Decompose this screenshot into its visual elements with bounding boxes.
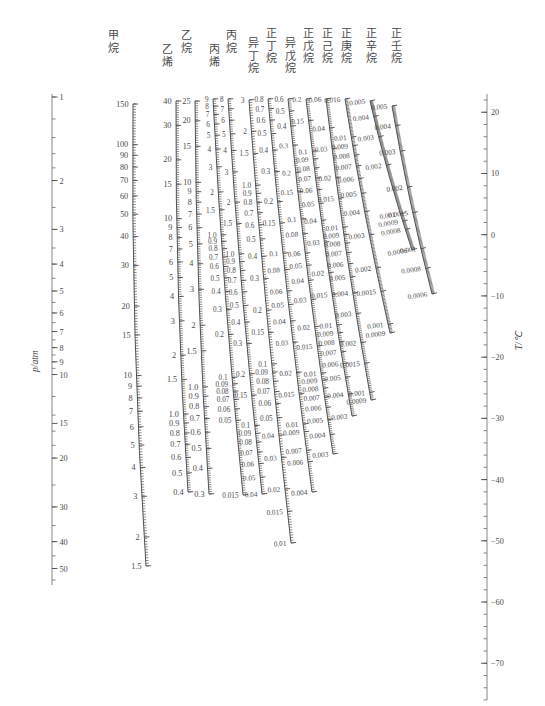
scale-tick-label: 0.003 [312,451,329,460]
scale-tick-label: 0.01 [274,540,287,549]
scale-tick-label: 60 [120,192,128,201]
scale-tick-label: 0.15 [251,329,264,337]
scale-tick-label: −70 [491,659,504,668]
scale-tick-label: 40 [60,538,68,547]
scale-tick-label: 0.6 [190,428,200,437]
scale-tick-label: 0.05 [271,301,284,310]
scale-tick-label: 0.1 [287,216,297,225]
scale-tick-label: 0.7 [255,106,264,114]
scale-tick-label: 0.5 [276,108,285,116]
scale-tick-label: 0.0015 [340,360,361,370]
scale-tick-label: 10 [124,371,132,380]
scale-tick-label: 0.0015 [388,209,409,219]
scale-tick-label: 0.04 [312,125,325,134]
scale-tick-label: 0.006 [287,459,304,468]
scale-tick-label: 0.3 [194,490,204,499]
scale-tick-label: 8 [129,394,133,403]
scale-tick-label: 0.05 [289,262,303,271]
scale-tick-label: 0.008 [318,339,335,348]
scale-tick-label: 0.015 [311,291,328,300]
scale-tick-label: 20 [491,108,499,117]
scale-tick-label: 0.004 [374,122,391,132]
scale-tick-label: 0.5 [172,469,182,478]
scale-tick-label: 0.07 [298,175,312,184]
scale-tick-label: 0.008 [324,240,341,249]
scale-tick-label: 100 [116,140,128,149]
scale-tick-label: 15 [60,419,68,428]
scale-tick-label: 0.08 [297,165,311,174]
scale-tick-label: 4 [208,146,212,154]
scale-tick-label: 0.2 [264,198,273,206]
scale-tick-label: 4 [60,260,64,269]
scale-tick-label: 0.015 [318,195,335,204]
scale-tick-label: 0.006 [337,175,354,185]
scale-tick-label: 0.9 [226,258,235,266]
scale-tick-label: 0.8 [255,96,264,104]
scale-tick-label: 0.08 [239,439,252,447]
scale-tick-label: 0.8 [170,429,180,438]
scale-tick-label: 5 [60,287,64,296]
scale-tick-label: 0.004 [291,489,308,498]
scale-tick-label: 0.08 [267,266,280,275]
scale-tick-label: 3 [241,97,245,105]
scale-tick-label: 2 [60,177,64,186]
scale-tick-label: 2 [191,321,195,330]
scale-tick-label: 20 [182,116,190,125]
scale-tick-label: 0.4 [277,123,286,131]
scale-tick-label: 80 [120,163,128,172]
scale-tick-label: 0.02 [311,269,325,278]
scale-tick-label: 7 [60,328,64,337]
scale-tick-label: 6 [206,121,210,129]
scale-tick-label: 0.6 [229,289,238,297]
scale-tick-label: 0.0009 [346,397,367,407]
scale-tick-label: 0.03 [307,239,321,248]
scale-tick-label: 0.08 [285,231,298,240]
scale-tick-label: −60 [491,598,504,607]
scale-tick-label: 0.06 [300,186,314,195]
scale-tick-label: 0.2 [253,307,262,315]
scale-tick-label: 0.2 [282,169,292,178]
scale-tick-label: 3 [171,317,175,326]
scale-tick-label: 10 [164,214,172,223]
scale-tick-label: 0.3 [261,168,270,176]
scale-tick-label: 0.007 [285,447,302,456]
scale-tick-label: 0.6 [171,453,181,462]
scale-tick-label: −20 [491,353,504,362]
scale-tick-label: 20 [163,155,171,164]
scale-tick-label: 0.005 [371,103,388,113]
scale-tick-label: 2 [136,533,140,542]
scale-tick-label: 1.5 [240,150,249,158]
scale-tick-label: 0.08 [216,388,229,396]
scale-tick-label: 10 [60,371,68,380]
scale-tick-label: 1.0 [169,410,179,419]
scale-tick-label: 0.5 [258,130,267,138]
scale-tick-label: 0.04 [273,318,286,327]
scale-tick-label: 50 [60,565,68,574]
scale-tick-label: 1.5 [167,375,177,384]
scale-tick-label: 1.0 [225,251,234,259]
scale-tick-label: 8 [168,233,172,242]
scale-tick-label: 0.7 [170,440,180,449]
scale-tick-label: 40 [120,232,128,241]
scale-tick-label: 0.1 [258,361,267,369]
scale-tick-label: 6 [60,309,64,318]
scale-tick-label: 0.005 [329,274,346,283]
scale-tick-label: 8 [220,96,224,104]
scale-tick-label: 20 [122,302,130,311]
scale-tick-label: 50 [120,210,128,219]
scale-tick-label: 0.002 [340,339,357,348]
scale-tick-label: 0.002 [365,162,383,172]
scale-tick-label: 0.005 [324,374,341,383]
scale-tick-label: 0.0008 [401,265,422,276]
scale-tick-label: 0.1 [241,422,250,430]
scale-tick-label: 0.7 [228,277,237,285]
scale-tick-label: 0.15 [280,188,293,197]
scale-tick-label: 0.05 [260,415,273,423]
scale-tick-label: 0.007 [303,394,320,403]
scale-tick-label: 10 [491,169,499,178]
scale-tick-label: 8 [60,344,64,353]
scale-tick-label: 0.009 [283,428,300,437]
scale-tick-label: 7 [129,407,133,416]
scale-tick-label: 0.008 [302,385,319,394]
scale-tick-label: 0.02 [297,323,311,332]
